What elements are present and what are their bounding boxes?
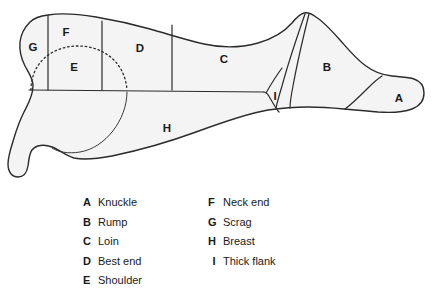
legend-key: E [83, 274, 98, 286]
legend-key: C [83, 235, 98, 247]
legend-label: Breast [223, 235, 255, 247]
carcass-diagram: A B C D E F G H I [0, 0, 440, 190]
region-label-e: E [70, 61, 78, 73]
region-label-c: C [220, 53, 228, 65]
region-label-h: H [163, 122, 171, 134]
legend-key: F [208, 196, 223, 208]
legend-key: A [83, 196, 98, 208]
region-label-a: A [395, 92, 403, 104]
legend-key: I [208, 255, 223, 267]
legend-key: H [208, 235, 223, 247]
region-label-d: D [136, 42, 144, 54]
region-label-g: G [29, 41, 38, 53]
legend-column-right: F Neck end G Scrag H Breast I Thick flan… [208, 196, 276, 274]
legend-item: E Shoulder [83, 274, 142, 294]
legend-item: F Neck end [208, 196, 276, 216]
region-label-i: I [273, 90, 276, 102]
region-label-f: F [62, 26, 69, 38]
legend-key: B [83, 216, 98, 228]
carcass-svg: A B C D E F G H I [0, 0, 440, 190]
legend-label: Best end [98, 255, 141, 267]
legend-label: Knuckle [98, 196, 137, 208]
legend-label: Scrag [223, 216, 252, 228]
legend-column-left: A Knuckle B Rump C Loin D Best end E Sho… [83, 196, 142, 294]
legend-item: I Thick flank [208, 255, 276, 275]
legend-item: H Breast [208, 235, 276, 255]
legend-label: Neck end [223, 196, 269, 208]
legend-key: D [83, 255, 98, 267]
legend: A Knuckle B Rump C Loin D Best end E Sho… [0, 190, 440, 302]
legend-label: Thick flank [223, 255, 276, 267]
legend-item: G Scrag [208, 216, 276, 236]
legend-item: A Knuckle [83, 196, 142, 216]
region-label-b: B [323, 61, 331, 73]
legend-item: C Loin [83, 235, 142, 255]
legend-item: D Best end [83, 255, 142, 275]
legend-item: B Rump [83, 216, 142, 236]
legend-label: Rump [98, 216, 127, 228]
legend-label: Shoulder [98, 274, 142, 286]
legend-key: G [208, 216, 223, 228]
legend-label: Loin [98, 235, 119, 247]
